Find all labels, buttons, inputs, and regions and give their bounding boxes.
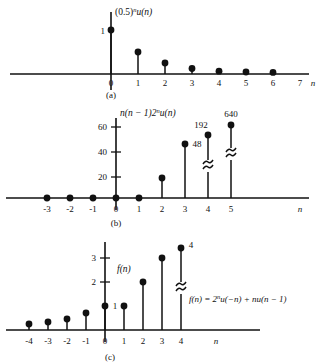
x-tick-a-5: 5 bbox=[244, 78, 249, 88]
x-tick-c-1: 1 bbox=[122, 336, 127, 346]
panel-a: 1 0 1 2 3 4 5 6 7 n (0.5)nu(n) (a) bbox=[0, 0, 319, 100]
value-label-b-640: 640 bbox=[224, 109, 238, 119]
x-tick-a-0: 0 bbox=[109, 78, 114, 88]
stem-plot-c: 2 3 1 bbox=[0, 230, 319, 364]
x-tick-c-2: 2 bbox=[141, 336, 146, 346]
value-label-c-4: 4 bbox=[189, 240, 194, 250]
x-tick-c-m2: -2 bbox=[63, 336, 71, 346]
y-tick-c-2: 2 bbox=[92, 277, 97, 287]
title-b-lead: n(n − 1)2 bbox=[120, 108, 157, 119]
x-tick-b-m2: -2 bbox=[66, 204, 74, 214]
y-tick-b-60: 60 bbox=[98, 122, 108, 132]
caption-b: (b) bbox=[111, 218, 122, 228]
title-a-base: (0.5) bbox=[115, 7, 133, 18]
y-tick-b-40: 40 bbox=[98, 147, 108, 157]
x-tick-a-7: 7 bbox=[298, 78, 303, 88]
caption-a: (a) bbox=[106, 90, 116, 100]
title-a-rest: u(n) bbox=[136, 7, 152, 18]
x-tick-c-4: 4 bbox=[179, 336, 184, 346]
x-tick-b-3: 3 bbox=[183, 204, 188, 214]
title-b-rest: u(n) bbox=[160, 108, 176, 119]
x-tick-a-3: 3 bbox=[190, 78, 195, 88]
x-tick-b-m1: -1 bbox=[89, 204, 97, 214]
y-tick-c-3: 3 bbox=[92, 253, 97, 263]
value-label-c-1: 1 bbox=[113, 301, 118, 311]
x-tick-c-m4: -4 bbox=[25, 336, 33, 346]
caption-c: (c) bbox=[105, 352, 115, 362]
x-tick-c-3: 3 bbox=[160, 336, 165, 346]
panel-c: 2 3 1 bbox=[0, 230, 319, 364]
x-tick-b-4: 4 bbox=[206, 204, 211, 214]
x-axis-name-a: n bbox=[311, 78, 316, 88]
equation-c-lead: f(n) = 2 bbox=[189, 294, 218, 304]
stem-plot-b: 20 40 60 bbox=[0, 100, 319, 230]
x-tick-b-5: 5 bbox=[229, 204, 234, 214]
x-tick-c-m1: -1 bbox=[82, 336, 90, 346]
value-label-b-192: 192 bbox=[194, 120, 208, 130]
value-label-a-1: 1 bbox=[101, 26, 106, 36]
x-tick-b-2: 2 bbox=[160, 204, 165, 214]
x-tick-a-4: 4 bbox=[217, 78, 222, 88]
equation-c-rest: u(−n) + nu(n − 1) bbox=[220, 294, 286, 304]
signal-name-label-c: f(n) bbox=[117, 264, 131, 275]
plot-title-a: (0.5)nu(n) bbox=[115, 6, 152, 19]
x-tick-b-m3: -3 bbox=[43, 204, 51, 214]
plot-title-b: n(n − 1)2nu(n) bbox=[120, 107, 176, 120]
y-tick-b-20: 20 bbox=[98, 172, 108, 182]
x-axis-name-b: n bbox=[298, 204, 303, 214]
x-tick-a-6: 6 bbox=[271, 78, 276, 88]
stem-group-a bbox=[108, 27, 277, 76]
x-tick-c-m3: -3 bbox=[44, 336, 52, 346]
x-tick-b-0: 0 bbox=[114, 204, 119, 214]
stem-plot-a: 1 0 1 2 3 4 5 6 7 n (0.5)nu(n) (a) bbox=[0, 0, 319, 100]
equation-c: f(n) = 2nu(−n) + nu(n − 1) bbox=[189, 293, 287, 305]
value-label-b-48: 48 bbox=[193, 139, 203, 149]
x-tick-b-1: 1 bbox=[137, 204, 142, 214]
stem-group-b bbox=[44, 122, 236, 202]
panel-b: 20 40 60 bbox=[0, 100, 319, 230]
x-tick-a-2: 2 bbox=[163, 78, 168, 88]
x-tick-c-0: 0 bbox=[103, 336, 108, 346]
x-axis-name-c: n bbox=[214, 336, 219, 346]
x-tick-a-1: 1 bbox=[136, 78, 141, 88]
